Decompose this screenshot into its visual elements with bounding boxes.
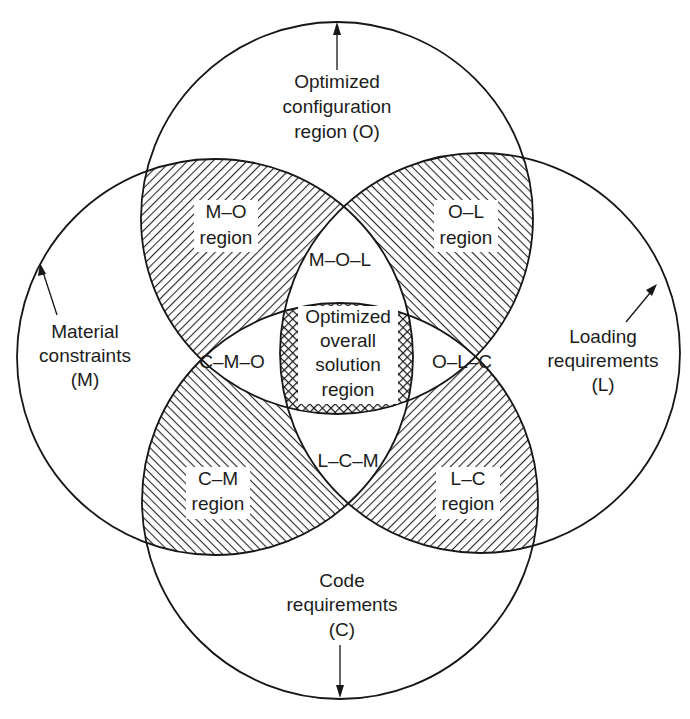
label-l-c-line1: L–C [451,468,486,489]
label-o-l-line2: region [440,227,493,248]
label-l-line1: Loading [569,326,637,347]
label-o-l-c: O–L–C [432,351,492,372]
label-l-line2: requirements [548,350,659,371]
label-m-o-line2: region [200,227,253,248]
arrow-down-icon [336,645,344,698]
arrow-upright-icon [626,284,657,322]
label-c-m-line1: C–M [198,468,238,489]
arrow-up-icon [333,22,341,70]
label-center-line3: solution [315,354,381,375]
arrow-upleft-icon [38,263,57,315]
label-c-m-line2: region [192,493,245,514]
label-o-l-line1: O–L [448,201,484,222]
label-center-line1: Optimized [305,306,391,327]
label-m-o-line1: M–O [205,201,246,222]
label-c-line3: (C) [329,619,355,640]
label-c-m-o: C–M–O [199,351,264,372]
venn-diagram: Optimized configuration region (O) Mater… [0,0,690,719]
label-m-line1: Material [51,321,119,342]
label-l-c-line2: region [442,493,495,514]
label-m-line2: constraints [39,345,131,366]
label-c-line2: requirements [287,594,398,615]
label-center-line2: overall [320,330,376,351]
label-m-o-l: M–O–L [309,249,371,270]
label-o-line1: Optimized [294,71,380,92]
label-o-line2: configuration [283,96,392,117]
label-o-line3: region (O) [294,121,380,142]
label-c-line1: Code [319,570,364,591]
label-m-line3: (M) [71,369,99,390]
label-l-line3: (L) [591,374,614,395]
label-center-line4: region [322,379,375,400]
label-l-c-m: L–C–M [317,450,378,471]
